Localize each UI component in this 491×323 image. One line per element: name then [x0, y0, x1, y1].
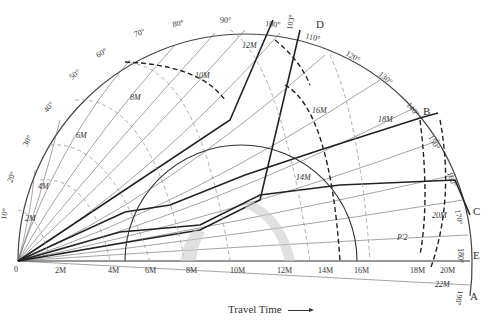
svg-text:4M: 4M [38, 182, 50, 191]
svg-text:110°: 110° [304, 31, 321, 44]
right-arrow-icon [288, 310, 312, 311]
svg-text:20°: 20° [5, 170, 17, 184]
svg-text:70°: 70° [133, 27, 147, 39]
svg-text:170°: 170° [453, 209, 465, 226]
svg-text:18M: 18M [410, 266, 425, 275]
svg-text:50°: 50° [68, 67, 82, 81]
svg-text:C: C [473, 205, 480, 217]
svg-text:103°: 103° [285, 14, 297, 31]
svg-text:8M: 8M [130, 93, 142, 102]
inner-arc [125, 145, 357, 261]
time-axis-labels: 0 2M 4M 6M 8M 10M 12M 14M 16M 18M 20M [14, 265, 455, 275]
svg-text:4M: 4M [108, 266, 119, 275]
svg-text:180°: 180° [456, 248, 465, 263]
svg-text:0: 0 [14, 265, 18, 274]
svg-text:12M: 12M [242, 41, 258, 50]
travel-time-diagram: 10° 20° 30° 40° 50° 60° 70° 80° 90° 100°… [0, 0, 491, 323]
svg-text:16M: 16M [354, 266, 369, 275]
travel-time-caption: Travel Time [228, 303, 312, 315]
svg-text:40°: 40° [42, 100, 56, 114]
svg-text:16M: 16M [312, 106, 328, 115]
svg-text:10M: 10M [195, 71, 211, 80]
svg-text:20M: 20M [432, 211, 448, 220]
angle-labels: 10° 20° 30° 40° 50° 60° 70° 80° 90° 100°… [0, 14, 465, 306]
shaded-band-1 [180, 230, 205, 261]
svg-text:150°: 150° [426, 134, 441, 152]
svg-text:18M: 18M [378, 115, 394, 124]
svg-text:6M: 6M [145, 266, 156, 275]
svg-text:80°: 80° [172, 18, 185, 29]
svg-text:B: B [423, 105, 430, 117]
svg-text:100°: 100° [265, 19, 281, 29]
thin-rays [18, 30, 470, 285]
svg-text:130°: 130° [377, 70, 394, 87]
shaded-band-2 [245, 200, 295, 261]
svg-text:22M: 22M [435, 280, 451, 289]
svg-text:D: D [316, 18, 324, 30]
svg-text:10°: 10° [0, 208, 10, 221]
svg-text:8M: 8M [186, 266, 197, 275]
svg-text:190°: 190° [453, 290, 465, 307]
svg-text:160°: 160° [445, 171, 459, 188]
svg-text:14M: 14M [318, 266, 333, 275]
svg-text:20M: 20M [440, 266, 455, 275]
svg-text:120°: 120° [344, 49, 362, 64]
thick-rays [18, 20, 470, 261]
svg-text:14M: 14M [296, 173, 312, 182]
svg-text:2M: 2M [55, 266, 66, 275]
outer-arc [18, 34, 472, 261]
svg-text:60°: 60° [95, 46, 109, 59]
svg-text:E: E [473, 249, 480, 261]
svg-text:2M: 2M [25, 214, 37, 223]
p2-annotation: P'2 [396, 233, 408, 242]
ray-letters: A B C D E [316, 18, 480, 302]
svg-text:12M: 12M [277, 266, 292, 275]
caption-text: Travel Time [228, 303, 282, 315]
svg-text:6M: 6M [76, 131, 88, 140]
svg-text:A: A [470, 290, 478, 302]
diagram-svg: 10° 20° 30° 40° 50° 60° 70° 80° 90° 100°… [0, 0, 491, 323]
svg-text:30°: 30° [21, 134, 34, 148]
svg-text:10M: 10M [230, 266, 245, 275]
svg-text:90°: 90° [220, 16, 231, 25]
